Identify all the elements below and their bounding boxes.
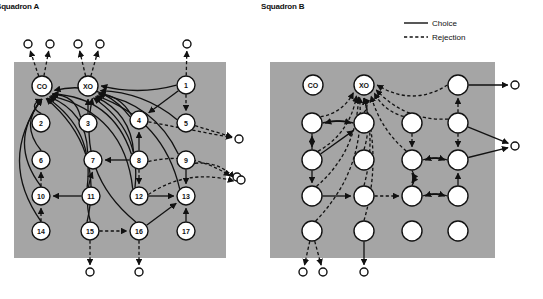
sociogram-figure: COXO1234567891011121314151617COXO Squadr…	[0, 0, 543, 299]
legend-lines	[0, 0, 543, 299]
legend-label-choice: Choice	[432, 19, 457, 28]
legend-label-rejection: Rejection	[432, 33, 465, 42]
